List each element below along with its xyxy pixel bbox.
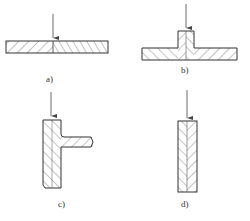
panel-label-d: d) [181,199,189,209]
weld-joint-diagram: a) b) c) [0,0,250,221]
plate-right [53,41,108,53]
panel-c: c) [43,92,93,209]
plate-left [6,41,53,53]
panel-label-c: c) [58,199,65,209]
panel-label-a: a) [46,74,53,84]
horizontal-arm [61,137,93,147]
panel-b: b) [142,4,237,75]
panel-a: a) [6,14,108,84]
stem-plate [178,31,194,60]
panel-label-b: b) [181,65,189,75]
vertical-plates [178,121,197,192]
panel-d: d) [178,90,197,209]
